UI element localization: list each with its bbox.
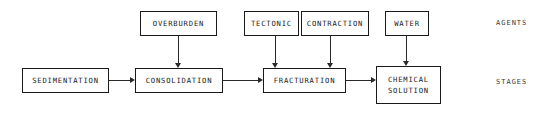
node-overburden[interactable]: OVERBURDEN: [140, 11, 217, 36]
edge-water-to-chemical-solution: [406, 36, 407, 62]
arrowhead-right-icon: [371, 77, 376, 83]
node-sedimentation[interactable]: SEDIMENTATION: [22, 68, 109, 93]
diagram-canvas: OVERBURDEN TECTONIC CONTRACTION WATER SE…: [0, 0, 547, 114]
node-fracturation-label: FRACTURATION: [274, 75, 336, 86]
row-label-stages: STAGES: [496, 78, 527, 86]
edge-tectonic-to-fracturation: [275, 36, 276, 64]
arrowhead-down-icon: [403, 61, 409, 66]
node-chemical-solution-label-line2: SOLUTION: [388, 85, 429, 96]
node-contraction-label: CONTRACTION: [307, 18, 363, 29]
edge-consolidation-to-fracturation: [223, 80, 259, 81]
node-chemical-solution-label-line1: CHEMICAL: [388, 74, 429, 85]
node-contraction[interactable]: CONTRACTION: [301, 11, 369, 36]
node-fracturation[interactable]: FRACTURATION: [263, 68, 346, 93]
edge-contraction-to-fracturation: [330, 36, 331, 64]
node-overburden-label: OVERBURDEN: [153, 18, 204, 29]
node-consolidation-label: CONSOLIDATION: [146, 75, 213, 86]
row-label-agents: AGENTS: [496, 19, 527, 27]
node-consolidation[interactable]: CONSOLIDATION: [135, 68, 223, 93]
node-chemical-solution[interactable]: CHEMICAL SOLUTION: [376, 66, 441, 104]
edge-sedimentation-to-consolidation: [109, 80, 131, 81]
node-sedimentation-label: SEDIMENTATION: [32, 75, 99, 86]
arrowhead-down-icon: [327, 63, 333, 68]
arrowhead-down-icon: [175, 63, 181, 68]
node-tectonic-label: TECTONIC: [251, 18, 292, 29]
edge-overburden-to-consolidation: [178, 36, 179, 64]
node-tectonic[interactable]: TECTONIC: [244, 11, 299, 36]
node-water-label: WATER: [394, 18, 420, 29]
edge-fracturation-to-chemical-solution: [346, 80, 372, 81]
node-water[interactable]: WATER: [385, 11, 429, 36]
arrowhead-right-icon: [130, 77, 135, 83]
arrowhead-right-icon: [258, 77, 263, 83]
arrowhead-down-icon: [272, 63, 278, 68]
